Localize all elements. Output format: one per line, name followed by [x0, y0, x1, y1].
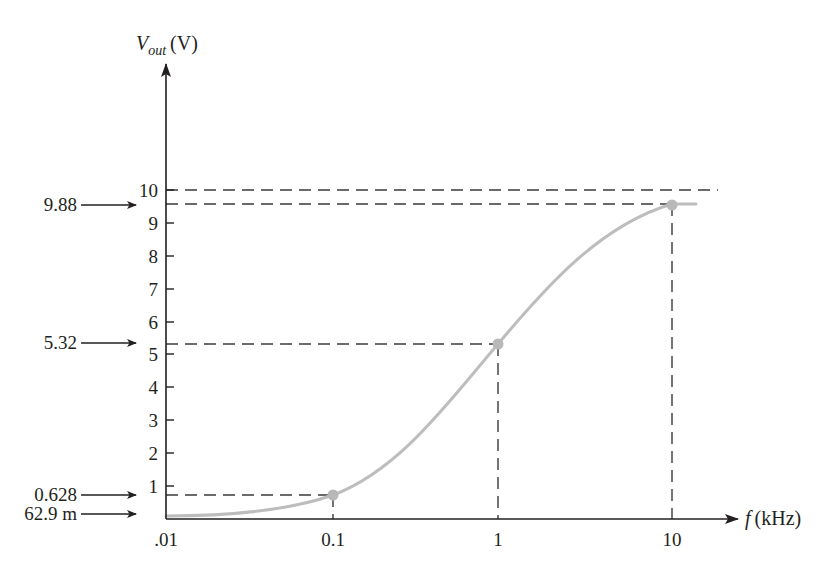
- y-tick-10: 10: [139, 180, 158, 201]
- x-tick-labels: .01 0.1 1 10: [154, 529, 681, 550]
- x-axis-title: f(kHz): [745, 507, 801, 530]
- y-tick-4: 4: [149, 377, 159, 398]
- marked-points: [328, 200, 678, 501]
- callout-0-628: 0.628: [34, 484, 77, 505]
- y-tick-1: 1: [149, 476, 159, 497]
- response-curve: [166, 204, 696, 516]
- x-tick-0-1: 0.1: [321, 529, 345, 550]
- point-1khz: [493, 339, 504, 350]
- y-axis-title: Vout(V): [136, 32, 198, 58]
- y-tick-6: 6: [149, 312, 159, 333]
- callout-5-32: 5.32: [44, 332, 77, 353]
- reference-lines: [166, 190, 718, 519]
- callout-labels: 9.88 5.32 0.628 62.9 m: [24, 194, 77, 524]
- y-ticks: [166, 190, 174, 486]
- y-tick-2: 2: [149, 443, 159, 464]
- y-tick-3: 3: [149, 410, 159, 431]
- x-tick-10: 10: [663, 529, 682, 550]
- x-tick-1: 1: [493, 529, 503, 550]
- x-tick-0-01: .01: [154, 529, 178, 550]
- point-10khz: [667, 200, 678, 211]
- y-tick-9: 9: [149, 213, 159, 234]
- y-tick-7: 7: [149, 279, 159, 300]
- callout-62-9m: 62.9 m: [24, 503, 77, 524]
- callout-arrows: [81, 205, 136, 514]
- callout-9-88: 9.88: [44, 194, 77, 215]
- y-tick-8: 8: [149, 246, 159, 267]
- y-tick-labels: 10 9 8 7 6 5 4 3 2 1: [139, 180, 159, 497]
- bode-response-chart: 10 9 8 7 6 5 4 3 2 1 .01 0.1 1 10 9.88 5…: [0, 0, 833, 568]
- y-tick-5: 5: [149, 344, 159, 365]
- point-0-1khz: [328, 490, 339, 501]
